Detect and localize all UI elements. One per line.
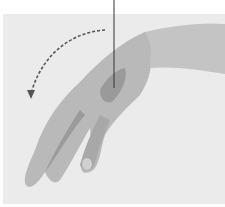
thumbnail (82, 158, 92, 170)
hand-illustration (0, 0, 225, 207)
arrow-head-icon (27, 90, 35, 99)
